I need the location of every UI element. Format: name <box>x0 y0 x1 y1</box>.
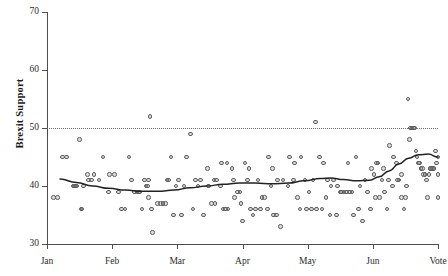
plot-area: 3040506070 JanFebMarAprMayJunVote <box>47 12 438 244</box>
loess-trend-path <box>60 154 438 191</box>
x-tick-label: May <box>288 256 328 266</box>
x-tick <box>308 244 309 249</box>
chart-figure: Brexit Support 3040506070 JanFebMarAprMa… <box>0 0 448 276</box>
x-tick <box>47 244 48 249</box>
y-axis-title: Brexit Support <box>14 59 25 169</box>
x-tick-label: Mar <box>157 256 197 266</box>
trend-line <box>47 12 438 244</box>
x-tick-label: Jun <box>353 256 393 266</box>
x-tick-label: Apr <box>223 256 263 266</box>
y-tick-label: 60 <box>19 65 39 75</box>
x-tick-label: Feb <box>92 256 132 266</box>
y-tick-label: 40 <box>19 181 39 191</box>
x-tick-label: Jan <box>27 256 67 266</box>
x-tick-label: Vote <box>418 256 448 266</box>
y-tick-label: 50 <box>19 123 39 133</box>
x-tick <box>112 244 113 249</box>
x-tick <box>373 244 374 249</box>
x-tick <box>438 244 439 249</box>
y-tick-label: 30 <box>19 239 39 249</box>
y-tick-label: 70 <box>19 7 39 17</box>
x-tick <box>243 244 244 249</box>
x-tick <box>177 244 178 249</box>
